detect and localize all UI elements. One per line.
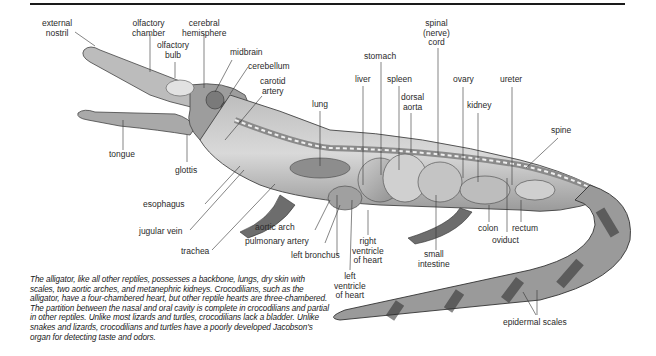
label-spinal-cord: spinal (nerve) cord <box>423 19 450 48</box>
label-carotid-artery: carotid artery <box>260 77 286 96</box>
label-spleen: spleen <box>387 75 412 85</box>
label-cerebellum: cerebellum <box>248 62 290 72</box>
heart-shape <box>328 186 362 210</box>
label-left-ventricle: left ventricle of heart <box>334 272 366 301</box>
label-liver: liver <box>355 75 371 85</box>
label-cerebral-hemisphere: cerebral hemisphere <box>182 19 226 38</box>
label-colon: colon <box>478 224 498 234</box>
label-spine: spine <box>551 126 571 136</box>
label-aortic-arch: aortic arch <box>255 223 295 233</box>
label-external-nostril: external nostril <box>42 19 72 38</box>
label-rectum: rectum <box>512 224 538 234</box>
label-ureter: ureter <box>500 75 522 85</box>
label-ovary: ovary <box>453 75 474 85</box>
label-dorsal-aorta: dorsal aorta <box>401 93 424 112</box>
caption: The alligator, like all other reptiles, … <box>30 275 330 342</box>
label-olfactory-bulb: olfactory bulb <box>157 41 189 60</box>
alligator-anatomy-diagram: external nostril olfactory chamber cereb… <box>0 0 656 356</box>
label-trachea: trachea <box>181 247 209 257</box>
label-tongue: tongue <box>109 150 135 160</box>
label-jugular-vein: jugular vein <box>139 227 182 237</box>
hind-leg <box>408 208 472 244</box>
label-oviduct: oviduct <box>492 236 519 246</box>
label-small-intestine: small intestine <box>418 250 450 269</box>
label-olfactory-chamber: olfactory chamber <box>132 19 165 38</box>
lower-jaw <box>78 110 195 135</box>
label-esophagus: esophagus <box>143 200 185 210</box>
label-lung: lung <box>312 100 328 110</box>
label-midbrain: midbrain <box>230 48 263 58</box>
label-right-ventricle: right ventricle of heart <box>352 237 384 266</box>
label-pulmonary-artery: pulmonary artery <box>245 237 309 247</box>
label-left-bronchus: left bronchus <box>291 251 340 261</box>
label-kidney: kidney <box>467 101 492 111</box>
label-stomach: stomach <box>364 52 396 62</box>
label-epidermal-scales: epidermal scales <box>503 318 567 328</box>
label-glottis: glottis <box>175 166 197 176</box>
